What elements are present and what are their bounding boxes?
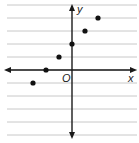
axes: y x O (4, 3, 137, 139)
x-axis-label: x (127, 72, 134, 84)
data-point (56, 54, 61, 59)
data-point (95, 15, 100, 20)
data-point (82, 28, 87, 33)
origin-label: O (62, 72, 71, 84)
coordinate-plane: y x O (0, 0, 139, 143)
x-axis-left-arrow-icon (4, 67, 11, 73)
data-point (43, 67, 48, 72)
data-point (69, 41, 74, 46)
data-point (30, 80, 35, 85)
